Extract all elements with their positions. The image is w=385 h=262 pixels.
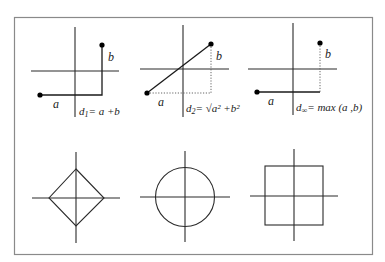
formula-dinf: d∞= max (a ,b) (296, 101, 363, 115)
label-b: b (108, 50, 114, 64)
end-point (99, 42, 104, 47)
start-point (254, 89, 259, 94)
label-a: a (268, 94, 274, 108)
end-point (208, 41, 213, 46)
panel-linf-unit-ball (250, 149, 338, 241)
panel-euclidean: b a d2= √a² +b² (140, 25, 240, 117)
label-a: a (53, 97, 59, 111)
label-b: b (216, 49, 222, 63)
panel-manhattan: b a d1= a +b (31, 27, 120, 119)
label-a: a (158, 95, 164, 109)
formula-d1: d1= a +b (79, 105, 120, 119)
panel-l2-unit-ball (140, 151, 230, 242)
label-b: b (325, 47, 331, 61)
end-point (317, 40, 322, 45)
figure-frame (15, 18, 373, 255)
distance-metrics-figure: b a d1= a +b b a d2= √a² +b² b a d∞= max… (0, 0, 385, 262)
start-point (37, 92, 42, 97)
manhattan-path (40, 45, 102, 95)
start-point (144, 90, 149, 95)
panel-l1-unit-ball (32, 152, 120, 243)
panel-chebyshev: b a d∞= max (a ,b) (248, 23, 363, 115)
formula-d2: d2= √a² +b² (186, 102, 240, 116)
